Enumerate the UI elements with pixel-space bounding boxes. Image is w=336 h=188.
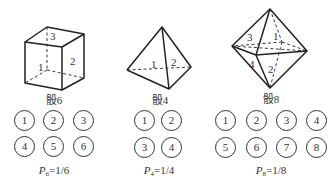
octahedron-face-label: 3 xyxy=(247,32,253,43)
prob-value: =1/4 xyxy=(154,164,174,176)
cube-probability: P6=1/6 xyxy=(34,164,74,180)
tetrahedron-caption: 骰4 xyxy=(140,94,180,106)
tetrahedron-probability: P4=1/4 xyxy=(137,164,181,180)
outcome-circle: 2 xyxy=(246,110,267,131)
outcome-circle: 4 xyxy=(14,136,35,157)
octahedron-caption: 骰8 xyxy=(251,93,291,105)
outcome-circle: 7 xyxy=(276,137,297,158)
octahedron-face-label: 1 xyxy=(273,31,279,42)
outcome-circle: 4 xyxy=(306,110,327,131)
cube-face-label: 3 xyxy=(50,31,56,42)
cube-face-label: 2 xyxy=(70,56,76,67)
outcome-circle: 8 xyxy=(306,137,327,158)
tetrahedron-face-label: 1 xyxy=(151,59,157,70)
outcome-circle: 5 xyxy=(215,137,236,158)
outcome-circle: 6 xyxy=(73,136,94,157)
outcome-circle: 2 xyxy=(43,110,64,131)
outcome-circle: 1 xyxy=(215,110,236,131)
octahedron-probability: P8=1/8 xyxy=(249,164,293,180)
outcome-circle: 1 xyxy=(14,110,35,131)
outcome-circle: 5 xyxy=(43,136,64,157)
prob-value: =1/8 xyxy=(266,164,286,176)
octahedron-face-label: 2 xyxy=(268,64,274,75)
outcome-circle: 2 xyxy=(161,110,182,131)
tetrahedron-face-label: 2 xyxy=(171,57,177,68)
outcome-circle: 3 xyxy=(134,137,155,158)
outcome-circle: 6 xyxy=(246,137,267,158)
outcome-circle: 3 xyxy=(276,110,297,131)
outcome-circle: 1 xyxy=(134,110,155,131)
outcome-circle: 4 xyxy=(161,137,182,158)
cube-caption: 骰6 xyxy=(34,94,74,106)
octahedron-face-label: 4 xyxy=(249,59,255,70)
outcome-circle: 3 xyxy=(73,110,94,131)
tetrahedron-figure xyxy=(127,27,191,89)
prob-value: =1/6 xyxy=(49,164,69,176)
octahedron-figure xyxy=(232,9,307,88)
cube-face-label: 1 xyxy=(38,62,44,73)
